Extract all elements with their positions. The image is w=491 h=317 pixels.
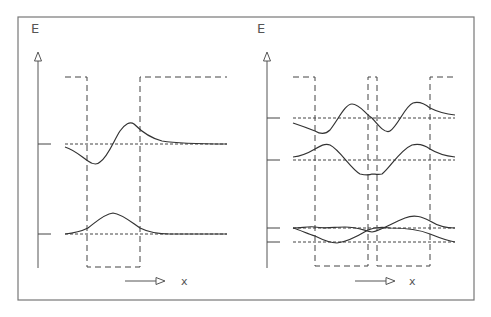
arrow-up-icon — [264, 52, 271, 61]
arrow-right-icon — [156, 278, 165, 285]
wavefunction-ground — [65, 213, 227, 234]
wavefunction-level-2 — [293, 216, 455, 232]
energy-axis-label: E — [257, 21, 265, 36]
panel-single-well: E x — [31, 21, 227, 288]
arrow-right-icon — [386, 278, 395, 285]
energy-axis-label: E — [31, 21, 39, 36]
wavefunction-level-1 — [293, 227, 455, 243]
arrow-up-icon — [35, 52, 42, 61]
panel-double-well: E x — [257, 21, 455, 288]
x-axis-label: x — [409, 275, 416, 288]
wavefunction-excited — [65, 123, 227, 164]
figure-frame — [18, 17, 474, 300]
x-axis-label: x — [181, 275, 188, 288]
potential-well — [65, 77, 227, 267]
quantum-well-diagram: E x E — [0, 0, 491, 317]
